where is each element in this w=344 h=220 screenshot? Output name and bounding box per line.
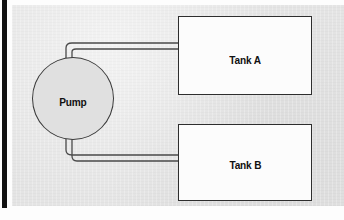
pipe-pump-to-tank-a-inner — [72, 49, 179, 60]
tank-a-label: Tank A — [229, 54, 261, 66]
pump-component[interactable]: Pump — [32, 57, 114, 140]
pipe-pump-to-tank-b-inner — [72, 137, 179, 161]
tank-b-component[interactable]: Tank B — [178, 124, 312, 201]
tank-a-component[interactable]: Tank A — [178, 16, 312, 95]
pump-label: Pump — [59, 96, 86, 108]
scanned-diagram-page: Pump Tank A Tank B — [0, 0, 344, 220]
tank-b-label: Tank B — [229, 159, 261, 171]
